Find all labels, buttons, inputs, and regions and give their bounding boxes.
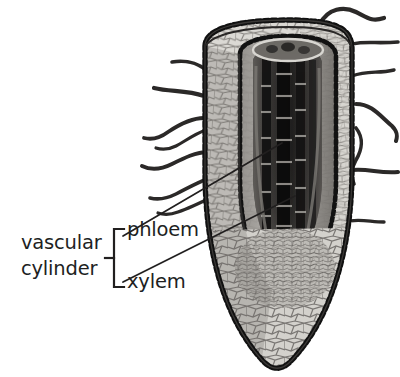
label-cylinder: cylinder: [21, 258, 97, 280]
root-tip-illustration: [0, 0, 400, 377]
label-xylem: xylem: [127, 271, 186, 293]
vascular-cylinder-bracket: [105, 229, 124, 287]
label-phloem: phloem: [127, 219, 199, 241]
figure-canvas: vascular cylinder phloem xylem: [0, 0, 400, 377]
root-body: [190, 20, 360, 375]
label-vascular: vascular: [21, 232, 102, 254]
